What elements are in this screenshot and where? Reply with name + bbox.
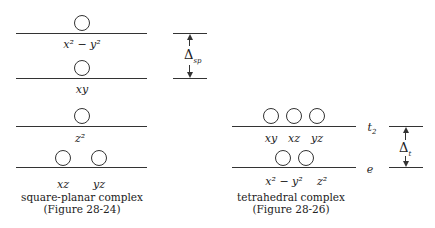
level-e xyxy=(232,167,356,168)
arrow-up-icon xyxy=(187,34,193,40)
orbital-t2-xz xyxy=(286,108,302,124)
caption-square-planar: square-planar complex (Figure 28-24) xyxy=(21,191,143,215)
label-z2: z² xyxy=(75,132,85,145)
label-t2-yz: yz xyxy=(311,132,323,145)
label-e-x2-y2: x² − y² xyxy=(265,175,302,188)
level-z2 xyxy=(16,126,147,127)
orbital-t2-yz xyxy=(309,108,325,124)
label-yz: yz xyxy=(93,178,105,191)
level-x2-y2 xyxy=(16,33,147,34)
label-xz: xz xyxy=(57,178,69,191)
orbital-e-x2-y2 xyxy=(275,150,291,166)
orbital-xy xyxy=(74,60,90,76)
delta-t-label: Δt xyxy=(399,140,411,158)
caption-tetrahedral: tetrahedral complex (Figure 28-26) xyxy=(237,191,345,215)
label-x2-y2: x² − y² xyxy=(63,38,100,51)
arrow-up-icon xyxy=(403,127,409,133)
orbital-xz xyxy=(55,150,71,166)
delta-sp-label: Δsp xyxy=(184,47,201,65)
label-t2-xy: xy xyxy=(265,132,277,145)
delta-t-arrow-top xyxy=(405,131,406,140)
level-t2 xyxy=(232,126,356,127)
label-t2-xz: xz xyxy=(288,132,300,145)
delta-sp-arrow-top xyxy=(189,38,190,46)
level-xy xyxy=(16,78,147,79)
label-xy: xy xyxy=(76,83,88,96)
delta-t-bottom xyxy=(389,167,423,168)
level-xz-yz xyxy=(16,167,147,168)
arrow-down-icon xyxy=(403,161,409,167)
term-t2: t2 xyxy=(368,121,377,136)
term-e: e xyxy=(367,163,374,176)
orbital-t2-xy xyxy=(263,108,279,124)
label-e-z2: z² xyxy=(317,175,327,188)
delta-sp-bottom xyxy=(173,78,207,79)
arrow-down-icon xyxy=(187,72,193,78)
orbital-z2 xyxy=(74,108,90,124)
orbital-yz xyxy=(91,150,107,166)
orbital-e-z2 xyxy=(298,150,314,166)
orbital-x2-y2 xyxy=(74,15,90,31)
